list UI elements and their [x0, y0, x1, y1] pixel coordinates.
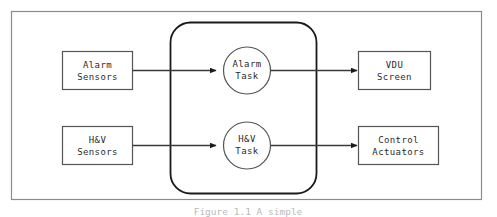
hv-sensors-label-line2: Sensors — [77, 147, 118, 157]
node-hv-task: H&V Task — [224, 122, 271, 169]
vdu-screen-label-line1: VDU — [386, 60, 403, 70]
control-actuators-label-line1: Control — [378, 135, 419, 145]
alarm-task-label-line2: Task — [235, 71, 258, 81]
node-control-actuators: Control Actuators — [359, 127, 439, 165]
vdu-screen-box — [359, 52, 431, 90]
vdu-screen-label-line2: Screen — [377, 72, 412, 82]
hv-task-label-line2: Task — [235, 146, 258, 156]
hv-task-label-line1: H&V — [238, 134, 256, 144]
alarm-task-label-line1: Alarm — [232, 59, 261, 69]
alarm-sensors-box — [63, 52, 133, 90]
control-actuators-box — [359, 127, 439, 165]
system-architecture-diagram: Alarm Sensors Alarm Task VDU Screen H&V … — [0, 0, 497, 217]
node-vdu-screen: VDU Screen — [359, 52, 431, 90]
node-alarm-sensors: Alarm Sensors — [63, 52, 133, 90]
hv-sensors-box — [63, 127, 133, 165]
hv-sensors-label-line1: H&V — [89, 135, 107, 145]
control-actuators-label-line2: Actuators — [372, 147, 424, 157]
outer-frame — [12, 12, 482, 200]
figure-caption: Figure 1.1 A simple — [194, 206, 303, 217]
diagram-canvas: Alarm Sensors Alarm Task VDU Screen H&V … — [0, 0, 497, 217]
alarm-sensors-label-line2: Sensors — [77, 72, 118, 82]
node-hv-sensors: H&V Sensors — [63, 127, 133, 165]
alarm-sensors-label-line1: Alarm — [83, 60, 112, 70]
node-alarm-task: Alarm Task — [224, 47, 271, 94]
